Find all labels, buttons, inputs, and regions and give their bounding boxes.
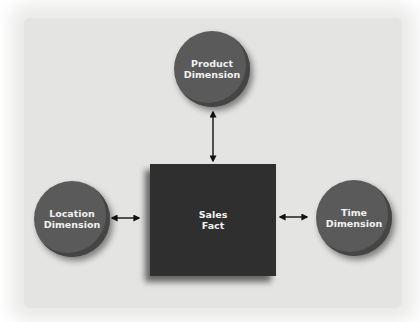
- location-dimension-node: Location Dimension: [34, 181, 110, 257]
- product-dimension-label: Product Dimension: [184, 58, 240, 80]
- time-dimension-node: Time Dimension: [316, 180, 392, 256]
- sales-fact-label: Sales Fact: [199, 209, 228, 231]
- sales-fact-node: Sales Fact: [150, 164, 276, 276]
- product-dimension-node: Product Dimension: [174, 31, 250, 107]
- location-dimension-label: Location Dimension: [44, 208, 100, 230]
- time-dimension-label: Time Dimension: [326, 207, 382, 229]
